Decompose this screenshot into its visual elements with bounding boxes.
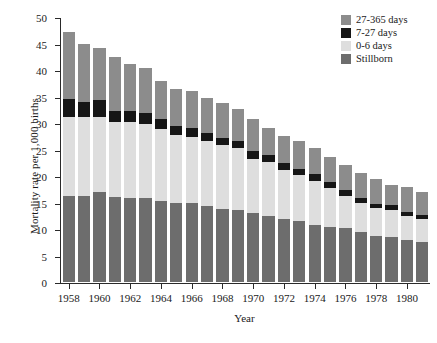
bar-segment-7-27-days [262,155,274,162]
bar-segment-27-365-days [63,32,75,99]
bar-1981 [416,192,428,282]
bar-segment-27-365-days [370,179,382,204]
bar-segment-0-6-days [93,117,105,192]
bar-segment-stillborn [370,236,382,282]
y-axis-tick: 30 [55,124,60,125]
bar-segment-0-6-days [139,124,151,198]
bar-1962 [124,64,136,282]
bar-segment-0-6-days [324,188,336,228]
bar-segment-0-6-days [401,216,413,240]
y-axis-tick-label: 35 [36,90,47,106]
bar-segment-7-27-days [247,151,259,158]
bar-segment-stillborn [401,240,413,282]
bar-segment-stillborn [186,203,198,282]
bar-segment-0-6-days [339,196,351,229]
y-axis-tick-label: 30 [36,116,47,132]
x-axis-title: Year [60,312,429,324]
bar-segment-stillborn [63,196,75,282]
bar-segment-stillborn [216,209,228,282]
y-axis-tick-label: 40 [36,63,47,79]
bar-1958 [63,32,75,282]
legend-item-label: 27-365 days [356,14,408,26]
x-axis-tick [376,284,377,289]
legend-item-label: 7-27 days [356,27,397,39]
bar-segment-stillborn [324,227,336,282]
x-axis-tick [407,284,408,289]
y-axis-tick: 5 [55,257,60,258]
bar-1978 [370,179,382,282]
bar-segment-27-365-days [262,128,274,155]
y-axis-tick-label: 45 [36,37,47,53]
x-axis-tick [345,284,346,289]
bar-segment-stillborn [93,192,105,282]
legend-item: 7-27 days [341,27,437,39]
legend-swatch-icon [341,28,351,38]
bar-1971 [262,128,274,282]
bar-segment-27-365-days [324,157,336,182]
bar-1975 [324,157,336,282]
bar-segment-7-27-days [93,100,105,116]
bar-segment-stillborn [247,213,259,282]
bar-1973 [293,141,305,283]
bar-segment-stillborn [109,197,121,282]
bar-1976 [339,165,351,282]
bar-segment-7-27-days [170,126,182,134]
bar-segment-0-6-days [109,122,121,197]
bar-segment-0-6-days [309,181,321,225]
bar-segment-27-365-days [385,185,397,206]
bar-segment-7-27-days [155,119,167,129]
bar-segment-stillborn [385,237,397,282]
bar-segment-0-6-days [232,148,244,211]
bar-segment-27-365-days [355,173,367,197]
bar-1959 [78,44,90,283]
bar-segment-7-27-days [216,138,228,145]
bar-segment-0-6-days [293,175,305,221]
bar-segment-0-6-days [170,135,182,203]
x-axis-tick [315,284,316,289]
bar-segment-27-365-days [309,148,321,175]
bar-1972 [278,136,290,282]
bar-segment-stillborn [262,216,274,282]
legend-swatch-icon [341,41,351,51]
bar-segment-stillborn [355,232,367,282]
x-axis-tick [253,284,254,289]
bar-1963 [139,68,151,282]
bar-segment-27-365-days [78,44,90,103]
bar-1961 [109,57,121,282]
bar-1974 [309,148,321,282]
y-axis-tick: 35 [55,98,60,99]
bar-segment-7-27-days [339,190,351,195]
bar-1966 [186,91,198,282]
bar-segment-stillborn [278,219,290,282]
x-axis-tick [130,284,131,289]
bar-segment-7-27-days [293,169,305,175]
bar-segment-7-27-days [370,204,382,209]
bar-1965 [170,89,182,282]
y-axis-tick: 40 [55,71,60,72]
bar-segment-27-365-days [339,165,351,190]
bar-segment-7-27-days [401,212,413,217]
bar-segment-7-27-days [309,174,321,180]
bar-1970 [247,119,259,282]
bar-segment-7-27-days [324,182,336,188]
bar-1967 [201,98,213,282]
mortality-rate-stacked-bar-chart: Mortality rate per 1,000 births 05101520… [0,0,437,343]
bar-1960 [93,48,105,282]
x-axis-line [60,283,430,284]
bar-segment-stillborn [170,203,182,282]
bar-segment-7-27-days [186,128,198,136]
bar-segment-27-365-days [155,81,167,120]
bar-segment-0-6-days [370,208,382,236]
bar-segment-0-6-days [78,117,90,195]
bar-segment-7-27-days [109,111,121,122]
bar-segment-7-27-days [63,99,75,116]
x-axis-tick [161,284,162,289]
x-axis-tick-label: 1980 [387,292,427,304]
bar-segment-7-27-days [385,205,397,210]
y-axis-tick-label: 5 [42,249,48,265]
bar-segment-stillborn [78,196,90,282]
bar-segment-27-365-days [232,109,244,140]
bar-segment-27-365-days [93,48,105,100]
bar-1969 [232,109,244,282]
bar-segment-0-6-days [416,219,428,242]
